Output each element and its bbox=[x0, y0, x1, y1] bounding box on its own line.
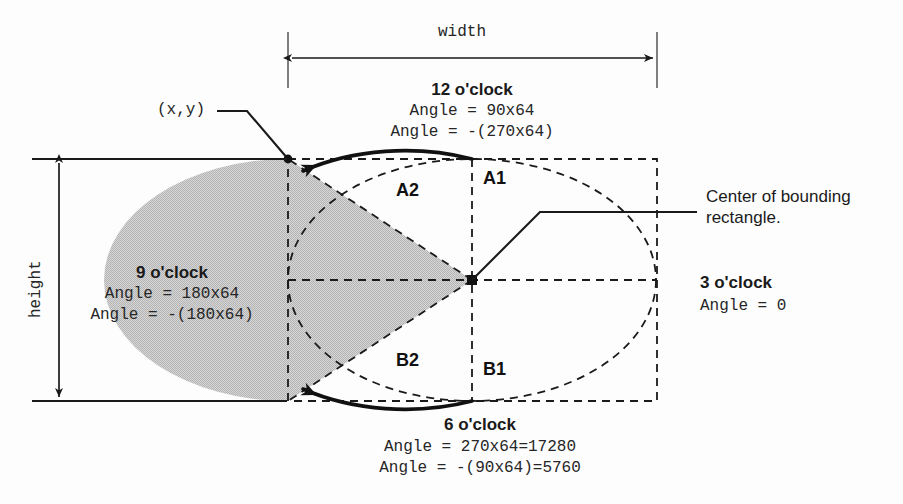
clock-angle-9-positive: Angle = 180x64 bbox=[62, 284, 282, 304]
arc-label-b2: B2 bbox=[396, 349, 419, 372]
arc-label-a2: A2 bbox=[396, 179, 419, 202]
center-note-line-1: Center of bounding bbox=[706, 186, 851, 208]
clock-label-12: 12 o'clock bbox=[372, 79, 572, 101]
center-note-line-2: rectangle. bbox=[706, 207, 781, 229]
clock-angle-12-positive: Angle = 90x64 bbox=[352, 101, 592, 121]
origin-coordinate-label: (x,y) bbox=[157, 100, 205, 120]
clock-angle-6-positive: Angle = 270x64=17280 bbox=[330, 437, 630, 457]
center-leader-line bbox=[472, 212, 697, 280]
arc-label-b1: B1 bbox=[483, 358, 506, 381]
diagram-canvas: width height (x,y) 12 o'clock Angle = 90… bbox=[0, 0, 903, 504]
arc-label-a1: A1 bbox=[483, 167, 506, 190]
clock-label-9: 9 o'clock bbox=[72, 262, 272, 284]
clock-angle-3-positive: Angle = 0 bbox=[700, 296, 786, 316]
clock-label-3: 3 o'clock bbox=[700, 272, 772, 294]
height-dimension-label: height bbox=[26, 260, 46, 318]
width-dimension-label: width bbox=[438, 22, 486, 42]
clock-label-6: 6 o'clock bbox=[380, 414, 580, 436]
origin-leader-line bbox=[217, 111, 292, 163]
clock-angle-6-negative: Angle = -(90x64)=5760 bbox=[330, 458, 630, 478]
clock-angle-12-negative: Angle = -(270x64) bbox=[352, 122, 592, 142]
clock-angle-9-negative: Angle = -(180x64) bbox=[62, 305, 282, 325]
